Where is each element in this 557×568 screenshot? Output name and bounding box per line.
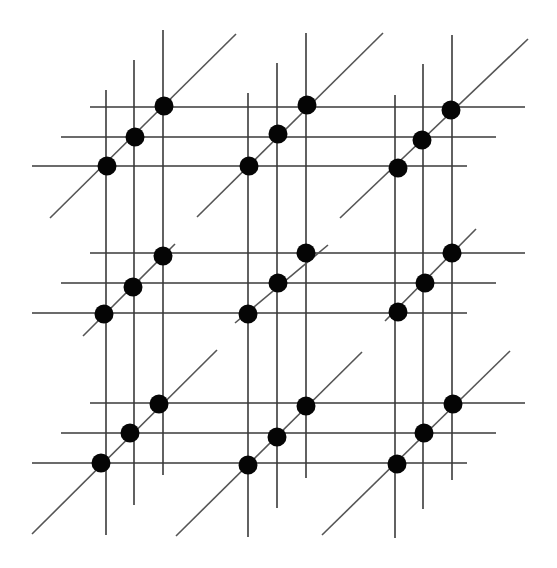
- lattice-node: [155, 97, 174, 116]
- lattice-node: [444, 395, 463, 414]
- lattice-node: [121, 424, 140, 443]
- lattice-node: [268, 428, 287, 447]
- lattice-node: [442, 101, 461, 120]
- lattice-node: [92, 454, 111, 473]
- lattice-node: [416, 274, 435, 293]
- lattice-node: [98, 157, 117, 176]
- lattice-node: [240, 157, 259, 176]
- diagonal-line: [197, 33, 383, 217]
- lattice-node: [413, 131, 432, 150]
- lattice-node: [126, 128, 145, 147]
- lattice-node: [124, 278, 143, 297]
- lattice-node: [154, 247, 173, 266]
- lattice-node: [239, 456, 258, 475]
- lattice-node: [443, 244, 462, 263]
- diagonal-line: [176, 352, 362, 536]
- lattice-node: [150, 395, 169, 414]
- lattice-node: [389, 303, 408, 322]
- lattice-node: [388, 455, 407, 474]
- lattice-diagram: [0, 0, 557, 568]
- lattice-node: [269, 274, 288, 293]
- lattice-node: [389, 159, 408, 178]
- lattice-node: [239, 305, 258, 324]
- diagonal-line: [50, 34, 236, 218]
- lattice-node: [297, 244, 316, 263]
- lattice-node: [298, 96, 317, 115]
- diagonal-line: [32, 350, 217, 534]
- diagonal-line: [322, 351, 510, 535]
- lattice-node: [95, 305, 114, 324]
- lattice-node: [269, 125, 288, 144]
- lattice-node: [415, 424, 434, 443]
- diagonal-line: [340, 39, 528, 218]
- lattice-node: [297, 397, 316, 416]
